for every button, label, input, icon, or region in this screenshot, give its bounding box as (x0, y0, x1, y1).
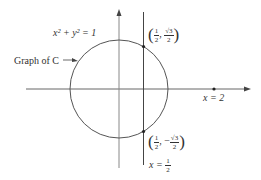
point-bottom (142, 130, 145, 133)
y-axis-arrow-icon (117, 9, 122, 16)
coordinate-plane (0, 0, 261, 180)
graph-of-c-label: Graph of C (14, 55, 59, 66)
line-equation-label: x = 12 (149, 157, 171, 174)
x-axis-arrow-icon (244, 87, 251, 92)
point-x-2 (212, 87, 215, 90)
circle-equation-label: x² + y² = 1 (53, 27, 96, 38)
graph-of-c-arrow-icon (72, 58, 78, 62)
point-top (142, 45, 145, 48)
point-bottom-label: (12, −√32) (148, 132, 185, 152)
x-equals-2-label: x = 2 (203, 92, 224, 103)
point-top-label: (12, √32) (148, 25, 179, 45)
